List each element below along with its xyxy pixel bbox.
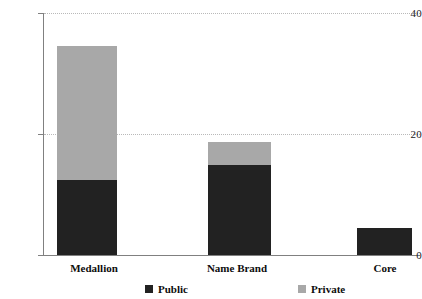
y-tick-label-40: 40 [386, 7, 422, 19]
chart-legend: Public Private [0, 282, 422, 299]
x-axis-line [43, 255, 420, 256]
bar-chart: 40 20 0 Medallion Name Brand Core Public… [0, 0, 422, 299]
y-tick-label-20: 20 [386, 128, 422, 140]
x-axis-label-name-brand: Name Brand [177, 262, 297, 274]
legend-label-public: Public [158, 283, 188, 295]
bar-segment-private [57, 46, 117, 180]
bar-segment-public [57, 180, 117, 255]
legend-label-private: Private [311, 283, 345, 295]
legend-swatch-public [145, 285, 153, 293]
gridline-40 [44, 13, 420, 14]
x-axis-label-medallion: Medallion [34, 262, 154, 274]
y-tick-mark-40 [38, 13, 43, 14]
bar-name-brand[interactable] [208, 142, 271, 255]
legend-item-public[interactable]: Public [145, 282, 188, 296]
legend-swatch-private [298, 285, 306, 293]
y-tick-mark-0 [38, 255, 43, 256]
bar-segment-public [357, 228, 412, 255]
y-axis-line [43, 13, 44, 256]
x-axis-label-core: Core [325, 262, 422, 274]
y-tick-mark-20 [38, 134, 43, 135]
bar-segment-public [208, 165, 271, 255]
bar-core[interactable] [357, 228, 412, 255]
bar-medallion[interactable] [57, 46, 117, 255]
bar-segment-private [208, 142, 271, 165]
legend-item-private[interactable]: Private [298, 282, 345, 296]
